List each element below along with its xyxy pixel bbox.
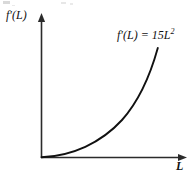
y-axis-arrowhead (38, 13, 45, 22)
curve-equation-base: f′(L) = 15L (117, 28, 170, 42)
curve-equation-exponent: 2 (170, 27, 174, 36)
figure-container: f′(L) L f′(L) = 15L2 (0, 0, 194, 174)
plot-canvas (0, 0, 194, 174)
x-axis-label: L (176, 160, 183, 172)
y-axis-label: f′(L) (6, 9, 27, 21)
curve-equation-label: f′(L) = 15L2 (117, 28, 174, 41)
curve-marginal-product (42, 48, 158, 157)
